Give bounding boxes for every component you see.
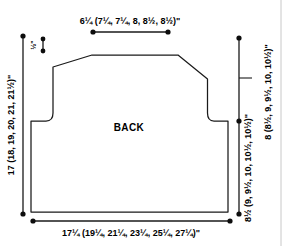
- dimension-right-outer-group: 8 (8½, 9, 9½, 10, 10½)": [236, 35, 273, 139]
- garment-outline-back: [31, 55, 228, 212]
- dimension-label-upper-back-width: 6¼ (7¼, 7¼, 8, 8½, 8½)": [80, 16, 180, 26]
- dimension-endpoint-left-top: [20, 33, 25, 38]
- dimension-left-group: 17 (18, 19, 20, 21, 21½)": [6, 33, 26, 216]
- dimension-label-armhole-depth: 8 (8½, 9, 9½, 10, 10½)": [263, 44, 273, 139]
- dimension-shoulder-slope-group: ½": [30, 37, 45, 54]
- dimension-endpoint-right-outer-top: [236, 35, 241, 40]
- dimension-endpoint-top-left: [90, 29, 95, 34]
- dimension-endpoint-slope-top: [41, 37, 46, 42]
- dimension-endpoint-left-bottom: [20, 211, 25, 216]
- dimension-label-lower-back-width: 17¼ (19¼, 21¼, 23¼, 25¼, 27¼)": [62, 228, 200, 238]
- dimension-label-length-to-underarm: 8½ (9, 9½, 10, 10½, 10½)": [243, 114, 253, 222]
- dimension-endpoint-top-right: [165, 29, 170, 34]
- dimension-label-shoulder-slope: ½": [30, 40, 37, 49]
- dimension-right-inner-group: 8½ (9, 9½, 10, 10½, 10½)": [236, 114, 253, 222]
- dimension-endpoint-slope-bottom: [41, 49, 46, 54]
- garment-schematic-figure: BACK 6¼ (7¼, 7¼, 8, 8½, 8½)" 17¼ (19¼, 2…: [0, 0, 282, 246]
- dimension-endpoint-bottom-left: [30, 218, 35, 223]
- dimension-endpoint-right-inner-bottom: [236, 211, 241, 216]
- piece-label-back: BACK: [114, 122, 145, 133]
- dimension-endpoint-bottom-right: [227, 218, 232, 223]
- schematic-canvas: BACK 6¼ (7¼, 7¼, 8, 8½, 8½)" 17¼ (19¼, 2…: [0, 0, 282, 246]
- dimension-bottom-group: 17¼ (19¼, 21¼, 23¼, 25¼, 27¼)": [30, 218, 232, 238]
- dimension-top-group: 6¼ (7¼, 7¼, 8, 8½, 8½)": [80, 16, 180, 35]
- dimension-label-total-length: 17 (18, 19, 20, 21, 21½)": [6, 75, 16, 175]
